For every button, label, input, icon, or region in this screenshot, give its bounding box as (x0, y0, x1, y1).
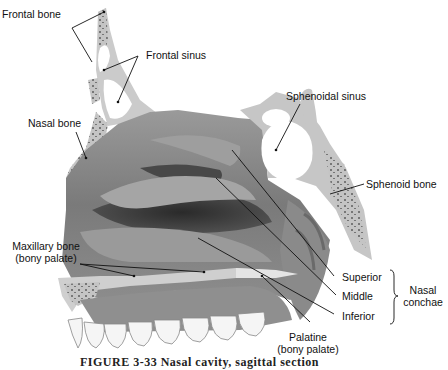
label-frontal-bone: Frontal bone (2, 8, 61, 20)
label-maxillary-bone-line2: (bony palate) (6, 252, 86, 264)
label-middle-concha: Middle (342, 290, 373, 302)
sphenoidal-sinus-large (261, 121, 312, 180)
label-nasal-conchae-line2: conchae (400, 296, 446, 308)
label-nasal-conchae: Nasal conchae (400, 284, 446, 308)
label-frontal-sinus: Frontal sinus (146, 49, 206, 61)
label-sphenoidal-sinus: Sphenoidal sinus (286, 90, 366, 102)
label-maxillary-bone-line1: Maxillary bone (6, 240, 86, 252)
figure-caption: FIGURE 3-33 Nasal cavity, sagittal secti… (80, 355, 319, 370)
label-sphenoid-bone: Sphenoid bone (366, 178, 437, 190)
label-palatine-line1: Palatine (270, 331, 346, 343)
label-nasal-conchae-line1: Nasal (400, 284, 446, 296)
label-nasal-bone: Nasal bone (28, 117, 81, 129)
label-maxillary-bone: Maxillary bone (bony palate) (6, 240, 86, 264)
label-palatine-line2: (bony palate) (270, 343, 346, 355)
label-inferior-concha: Inferior (342, 310, 375, 322)
label-palatine: Palatine (bony palate) (270, 331, 346, 355)
label-superior-concha: Superior (342, 271, 382, 283)
